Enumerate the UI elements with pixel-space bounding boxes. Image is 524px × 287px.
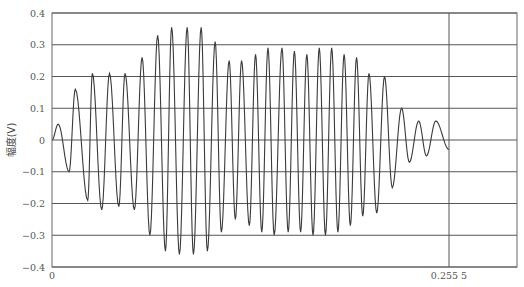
y-tick-label: −0.2 <box>22 198 45 209</box>
y-tick-labels: 0.40.30.20.10−0.1−0.2−0.3−0.4 <box>22 8 45 273</box>
y-tick-label: 0.2 <box>30 71 45 82</box>
y-tick-label: −0.4 <box>22 262 45 273</box>
x-tick-label-start: 0 <box>49 270 55 281</box>
y-tick-label: −0.1 <box>22 166 45 177</box>
chart: 0.40.30.20.10−0.1−0.2−0.3−0.4 幅度(V) 0 0.… <box>0 0 524 287</box>
y-tick-label: 0.3 <box>30 39 45 50</box>
y-tick-label: 0 <box>39 135 45 146</box>
x-tick-label-marker: 0.255 5 <box>431 270 467 281</box>
signal-line <box>52 27 449 254</box>
y-tick-label: 0.1 <box>30 103 45 114</box>
y-tick-label: −0.3 <box>22 230 45 241</box>
y-axis-label: 幅度(V) <box>5 123 17 158</box>
y-tick-label: 0.4 <box>30 8 45 19</box>
